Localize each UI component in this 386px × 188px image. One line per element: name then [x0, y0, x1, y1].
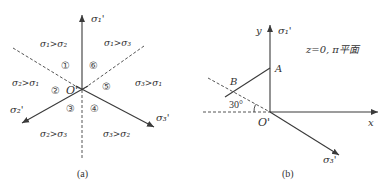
figure-b: y σ₁' z=0, π平面 A B 30° O' x σ₃' (b): [203, 25, 378, 180]
region-5: ⑤: [102, 81, 111, 92]
region-6: ⑥: [89, 60, 98, 71]
ineq-upper-left: σ₁>σ₂: [40, 39, 67, 49]
angle-label: 30°: [229, 99, 243, 110]
caption-b: (b): [282, 168, 294, 180]
sigma3-label-b: σ₃': [323, 154, 337, 165]
figure-a: σ₁' σ₂' σ₃' O' ① ⑥ ② ⑤ ③ ④ σ₁>σ₂ σ₁>σ₃ σ…: [10, 13, 170, 180]
ineq-lower-left: σ₂>σ₃: [40, 129, 67, 139]
point-b-label: B: [229, 76, 237, 87]
region-4: ④: [90, 103, 99, 114]
ineq-upper-right: σ₁>σ₃: [104, 38, 131, 48]
point-a-label: A: [274, 63, 282, 74]
origin-label-b: O': [258, 116, 270, 129]
caption-a: (a): [77, 168, 88, 180]
region-1: ①: [61, 60, 70, 71]
sigma3-axis: [76, 86, 154, 127]
plane-note: z=0, π平面: [305, 44, 361, 55]
origin-label-a: O': [66, 84, 78, 97]
sigma2-label: σ₂': [10, 104, 24, 115]
ineq-right: σ₃>σ₁: [135, 78, 162, 88]
region-3: ③: [66, 103, 75, 114]
sigma3-axis-b: [270, 112, 339, 155]
angle-arc: [254, 105, 256, 113]
region-2: ②: [51, 85, 60, 96]
diagram-canvas: σ₁' σ₂' σ₃' O' ① ⑥ ② ⑤ ③ ④ σ₁>σ₂ σ₁>σ₃ σ…: [0, 0, 386, 188]
x-axis-label: x: [368, 117, 374, 128]
ineq-lower-right: σ₃>σ₂: [103, 129, 130, 139]
sigma1-label: σ₁': [91, 13, 105, 24]
sigma3-label: σ₃': [156, 112, 170, 123]
y-axis-label: y: [255, 25, 262, 36]
sigma1-label-b: σ₁': [278, 25, 292, 36]
ineq-left: σ₂>σ₁: [12, 78, 39, 88]
